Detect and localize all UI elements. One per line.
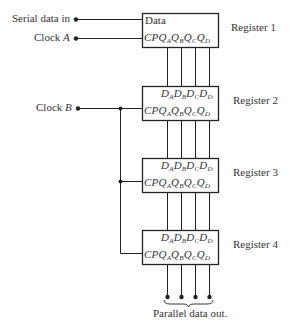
- output-terminal-a[interactable]: [165, 295, 169, 299]
- clock-a-var: A: [63, 31, 70, 43]
- clock-b-bus: [79, 109, 143, 254]
- output-terminal-d[interactable]: [207, 295, 211, 299]
- register-4-bottom-pins: CPQAQBQCQD: [144, 248, 210, 262]
- clock-a-prefix: Clock: [34, 31, 63, 43]
- output-brace: [164, 300, 213, 307]
- clock-b-prefix: Clock: [36, 101, 65, 113]
- output-terminal-c[interactable]: [193, 295, 197, 299]
- clock-b-junction-1: [119, 107, 123, 111]
- register-3-label: Register 3: [233, 166, 278, 178]
- register-3-bottom-pins: CPQAQBQCQD: [144, 176, 210, 190]
- clock-b-label: Clock B: [36, 101, 72, 113]
- register-2-top-pins: DADBDCDD: [161, 87, 213, 101]
- register-3-top-pins: DADBDCDD: [161, 159, 213, 173]
- clock-a-terminal[interactable]: [74, 36, 78, 40]
- parallel-data-out-label: Parallel data out.: [153, 307, 227, 319]
- register-1-label: Register 1: [231, 21, 276, 33]
- register-4-label: Register 4: [233, 238, 278, 250]
- register-1-data-pin: Data: [145, 14, 166, 26]
- register-4-top-pins: DADBDCDD: [161, 231, 213, 245]
- clock-b-var: B: [65, 101, 72, 113]
- register-2-label: Register 2: [233, 94, 278, 106]
- serial-data-in-label: Serial data in: [12, 12, 70, 24]
- serial-data-terminal[interactable]: [74, 17, 78, 21]
- clock-a-label: Clock A: [34, 31, 70, 43]
- output-terminal-b[interactable]: [179, 295, 183, 299]
- clock-b-terminal[interactable]: [76, 106, 80, 110]
- circuit-wiring: [0, 0, 290, 329]
- register-2-bottom-pins: CPQAQBQCQD: [144, 104, 210, 118]
- register-1-bottom-pins: CPQAQBQCQD: [144, 31, 210, 45]
- clock-b-junction-2: [119, 180, 123, 184]
